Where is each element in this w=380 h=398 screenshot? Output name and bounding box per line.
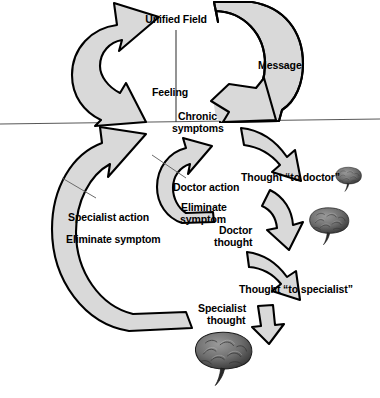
label-specialist-thought-line2: thought: [207, 315, 245, 327]
label-feeling: Feeling: [152, 87, 188, 99]
brain-large: [195, 332, 251, 385]
diagram-graphics: [0, 0, 380, 398]
label-thought-to-doctor: Thought “to doctor”: [241, 172, 340, 184]
label-unified-field: Unified Field: [145, 14, 207, 26]
label-chronic-symptoms-line1: Chronic: [178, 111, 217, 123]
label-specialist-thought-line1: Specialist: [198, 303, 246, 315]
label-doctor-action: Doctor action: [173, 182, 239, 194]
label-eliminate-symptom: Eliminate symptom: [66, 234, 161, 246]
label-thought-to-specialist: Thought “to specialist”: [239, 284, 353, 296]
doctor-thought-arrow: [262, 190, 303, 250]
diagram-canvas: Unified Field Message Feeling Chronic sy…: [0, 0, 380, 398]
label-message: Message: [258, 60, 302, 72]
label-eliminate-symptom-line1: Eliminate: [181, 202, 227, 214]
label-doctor-thought-line1: Doctor: [219, 225, 252, 237]
label-chronic-symptoms-line2: symptoms: [172, 123, 224, 135]
label-doctor-thought-line2: thought: [214, 237, 252, 249]
label-specialist-action: Specialist action: [68, 212, 149, 224]
specialist-thought-arrow: [252, 305, 284, 344]
brain-medium: [310, 208, 349, 245]
